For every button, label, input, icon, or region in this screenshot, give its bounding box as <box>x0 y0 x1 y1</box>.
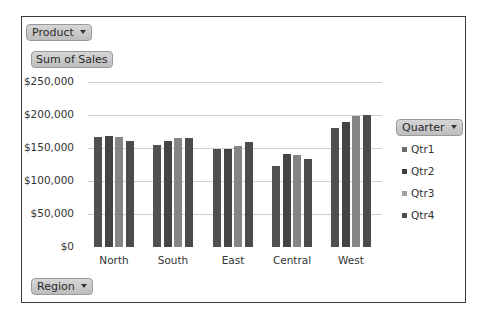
bar-central-qtr3[interactable] <box>293 155 301 247</box>
x-axis-category-label: West <box>321 254 381 266</box>
legend-item-qtr1[interactable]: Qtr1 <box>402 142 434 156</box>
region-axis-label: Region <box>37 280 75 293</box>
y-axis-tick-label: $250,000 <box>24 75 74 87</box>
x-axis-category-label: South <box>143 254 203 266</box>
bar-south-qtr4[interactable] <box>185 138 193 247</box>
x-axis-category-label: East <box>203 254 263 266</box>
bar-east-qtr4[interactable] <box>245 142 253 247</box>
region-axis-button[interactable]: Region <box>31 278 93 295</box>
legend-swatch-icon <box>402 191 407 196</box>
legend-label: Qtr3 <box>411 187 434 199</box>
x-axis-category-label: North <box>84 254 144 266</box>
x-axis-category-label: Central <box>262 254 322 266</box>
bar-central-qtr4[interactable] <box>304 159 312 247</box>
legend-item-qtr2[interactable]: Qtr2 <box>402 164 434 178</box>
product-filter-button[interactable]: Product <box>26 24 92 41</box>
bar-east-qtr3[interactable] <box>234 146 242 247</box>
bar-south-qtr3[interactable] <box>174 138 182 247</box>
quarter-legend-button[interactable]: Quarter <box>396 119 463 136</box>
y-axis-tick-label: $200,000 <box>24 108 74 120</box>
quarter-legend-label: Quarter <box>402 121 445 134</box>
bar-south-qtr1[interactable] <box>153 145 161 247</box>
legend-label: Qtr4 <box>411 209 434 221</box>
bar-north-qtr2[interactable] <box>105 136 113 247</box>
bar-north-qtr1[interactable] <box>94 137 102 247</box>
y-axis-tick-label: $50,000 <box>31 207 74 219</box>
legend-label: Qtr2 <box>411 165 434 177</box>
sum-of-sales-label: Sum of Sales <box>36 53 108 66</box>
y-axis-tick-label: $100,000 <box>24 174 74 186</box>
bar-west-qtr3[interactable] <box>352 116 360 247</box>
bar-north-qtr3[interactable] <box>115 137 123 247</box>
gridline <box>88 115 382 116</box>
bar-south-qtr2[interactable] <box>164 141 172 247</box>
legend-item-qtr4[interactable]: Qtr4 <box>402 208 434 222</box>
dropdown-arrow-icon <box>81 284 87 288</box>
bar-central-qtr2[interactable] <box>283 154 291 247</box>
legend-swatch-icon <box>402 147 407 152</box>
bar-east-qtr2[interactable] <box>224 149 232 247</box>
sum-of-sales-button[interactable]: Sum of Sales <box>31 51 113 68</box>
bar-west-qtr4[interactable] <box>363 115 371 247</box>
bar-west-qtr1[interactable] <box>331 128 339 247</box>
bar-north-qtr4[interactable] <box>126 141 134 247</box>
y-axis-tick-label: $0 <box>61 240 74 252</box>
dropdown-arrow-icon <box>80 30 86 34</box>
legend-label: Qtr1 <box>411 143 434 155</box>
product-filter-label: Product <box>32 26 74 39</box>
gridline <box>88 82 382 83</box>
dropdown-arrow-icon <box>451 125 457 129</box>
legend-item-qtr3[interactable]: Qtr3 <box>402 186 434 200</box>
bar-central-qtr1[interactable] <box>272 166 280 247</box>
y-axis-tick-label: $150,000 <box>24 141 74 153</box>
legend-swatch-icon <box>402 213 407 218</box>
bar-west-qtr2[interactable] <box>342 122 350 247</box>
bar-east-qtr1[interactable] <box>213 149 221 247</box>
legend-swatch-icon <box>402 169 407 174</box>
